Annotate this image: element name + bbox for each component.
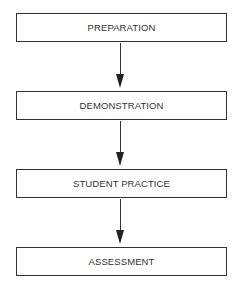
arrow-down-icon xyxy=(116,74,124,88)
step-label: DEMONSTRATION xyxy=(80,100,164,111)
arrow-down-icon xyxy=(116,230,124,244)
step-student-practice: STUDENT PRACTICE xyxy=(16,169,227,198)
step-label: PREPARATION xyxy=(88,22,156,33)
connector-line xyxy=(120,199,121,231)
connector-line xyxy=(120,43,121,75)
step-demonstration: DEMONSTRATION xyxy=(16,91,227,120)
step-preparation: PREPARATION xyxy=(16,13,227,42)
step-label: ASSESSMENT xyxy=(89,256,155,267)
arrow-down-icon xyxy=(116,152,124,166)
step-label: STUDENT PRACTICE xyxy=(73,178,170,189)
connector-line xyxy=(120,121,121,153)
step-assessment: ASSESSMENT xyxy=(16,247,227,276)
